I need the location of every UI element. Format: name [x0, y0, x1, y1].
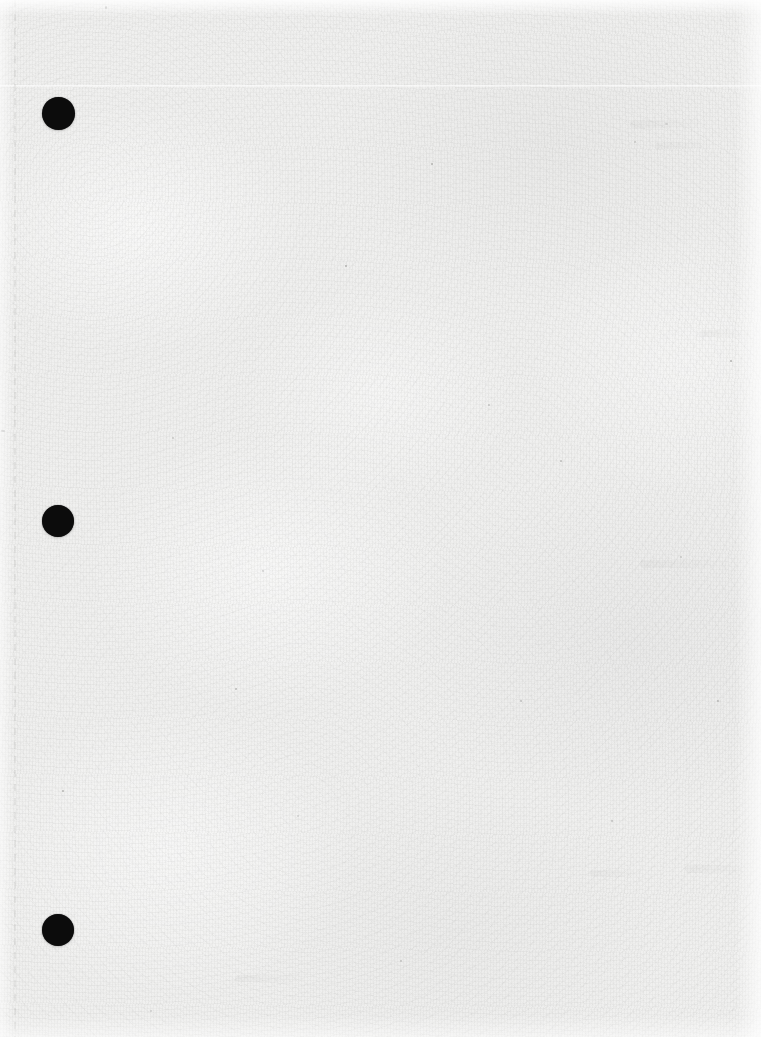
- paper-grain-texture-secondary: [0, 0, 761, 1037]
- scanned-page: [0, 0, 761, 1037]
- punch-hole-middle: [42, 505, 74, 537]
- punch-hole-top: [42, 97, 75, 130]
- punch-hole-bottom: [42, 914, 74, 946]
